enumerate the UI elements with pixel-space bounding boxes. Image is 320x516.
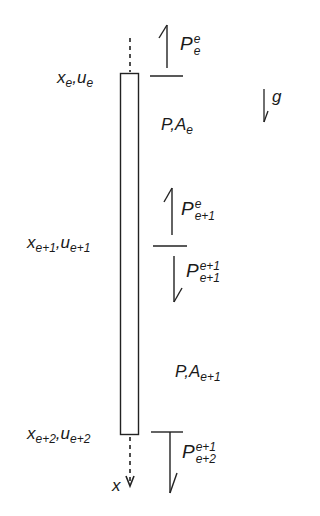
force-sub: e+2 [196, 453, 216, 465]
node-bottom-u-sub: e+2 [70, 432, 90, 446]
force-Pe1-e2-label: Pe+1e+2 [182, 441, 216, 465]
element-e-P: P [161, 115, 170, 134]
axis-symbol: x [112, 476, 121, 495]
node-mid-label: xe+1,ue+1 [27, 234, 90, 254]
force-symbol: P [180, 33, 193, 54]
element-e1-sub: e+1 [200, 370, 220, 384]
node-bottom-u: u [61, 424, 70, 443]
force-symbol: P [186, 260, 199, 281]
force-Pe-e-label: Pee [180, 33, 200, 57]
gravity-label: g [272, 88, 281, 105]
force-Pe-e1-label: Pee+1 [181, 198, 215, 222]
force-Pe1-e1-label: Pe+1e+1 [186, 260, 220, 284]
force-symbol: P [182, 441, 195, 462]
node-mid-x-sub: e+1 [36, 241, 56, 255]
node-bottom-label: xe+2,ue+2 [27, 425, 90, 445]
element-e-A: A [175, 115, 186, 134]
element-e1-P: P [175, 362, 184, 381]
force-sub: e+1 [195, 210, 215, 222]
force-indices: e+1e+2 [196, 441, 216, 465]
node-mid-u: u [61, 233, 70, 252]
node-top-label: xe,ue [57, 69, 93, 89]
force-symbol: P [181, 198, 194, 219]
bar-element [121, 74, 139, 435]
node-top-x: x [57, 68, 66, 87]
force-indices: ee [194, 33, 201, 57]
element-e-label: P,Ae [161, 116, 193, 136]
force-Pe-e-arrowhead-icon [159, 25, 167, 38]
node-mid-u-sub: e+1 [70, 241, 90, 255]
gravity-symbol: g [272, 87, 281, 106]
force-Pe1-e1-arrowhead-icon [174, 288, 182, 302]
force-indices: ee+1 [195, 198, 215, 222]
element-e1-label: P,Ae+1 [175, 363, 221, 383]
force-sub: e+1 [200, 272, 220, 284]
force-indices: e+1e+1 [200, 260, 220, 284]
element-e1-A: A [189, 362, 200, 381]
element-e-sub: e [186, 123, 193, 137]
force-Pe1-e2-arrowhead-icon [170, 473, 177, 493]
force-sub: e [194, 45, 201, 57]
node-bottom-x-sub: e+2 [36, 432, 56, 446]
force-Pe-e1-arrowhead-icon [164, 188, 172, 202]
node-top-u-sub: e [86, 76, 93, 90]
node-bottom-x: x [27, 424, 36, 443]
node-mid-x: x [27, 233, 36, 252]
axis-label: x [112, 477, 121, 494]
node-top-u: u [77, 68, 86, 87]
